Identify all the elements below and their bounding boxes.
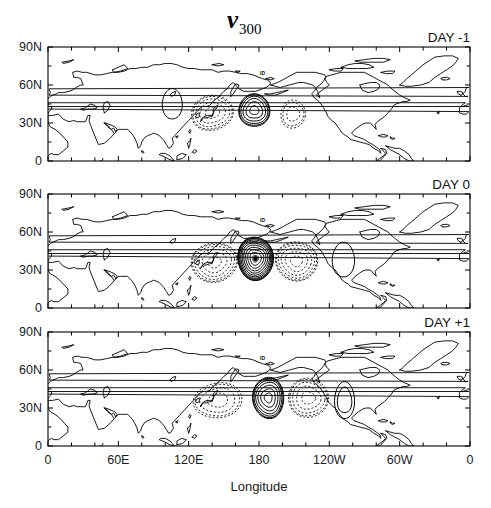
y-tick-label: 60N	[19, 363, 42, 377]
panel-day-plus-1: ID90N60N30N0DAY +1	[19, 315, 470, 453]
map-annotation-id: ID	[260, 217, 265, 223]
x-tick-label: 0	[45, 453, 52, 467]
title-variable: v	[227, 6, 239, 33]
x-tick-label: 0	[467, 453, 474, 467]
y-tick-label: 90N	[19, 325, 42, 339]
x-tick-label: 180	[249, 453, 270, 467]
panel-day-minus-1: ID90N60N30N0DAY -1	[19, 30, 470, 168]
y-tick-label: 60N	[19, 225, 42, 239]
v300-contour-figure: v300ID90N60N30N0DAY -1ID90N60N30N0DAY 0I…	[0, 0, 491, 508]
x-axis: 060E120E180120W60W0Longitude	[45, 453, 474, 494]
y-tick-label: 30N	[19, 263, 42, 277]
y-tick-label: 30N	[19, 401, 42, 415]
panel-day-0: ID90N60N30N0DAY 0	[19, 177, 470, 315]
map-annotation-id: ID	[260, 70, 265, 76]
map-annotation-id: ID	[260, 355, 265, 361]
x-tick-label: 60W	[387, 453, 413, 467]
y-tick-label: 90N	[19, 40, 42, 54]
title-subscript: 300	[239, 21, 262, 37]
x-tick-label: 120W	[313, 453, 346, 467]
y-tick-label: 60N	[19, 78, 42, 92]
y-tick-label: 90N	[19, 187, 42, 201]
x-tick-label: 60E	[107, 453, 129, 467]
figure-root: v300ID90N60N30N0DAY -1ID90N60N30N0DAY 0I…	[0, 0, 491, 508]
panel-background	[48, 332, 470, 446]
panel-label: DAY +1	[424, 315, 470, 330]
contour-core	[253, 256, 257, 261]
x-tick-label: 120E	[174, 453, 203, 467]
y-tick-label: 0	[35, 154, 42, 168]
y-tick-label: 0	[35, 301, 42, 315]
x-axis-label: Longitude	[230, 479, 287, 494]
panel-label: DAY 0	[432, 177, 470, 192]
y-tick-label: 0	[35, 439, 42, 453]
figure-title: v300	[227, 6, 262, 37]
y-tick-label: 30N	[19, 116, 42, 130]
panel-label: DAY -1	[428, 30, 470, 45]
